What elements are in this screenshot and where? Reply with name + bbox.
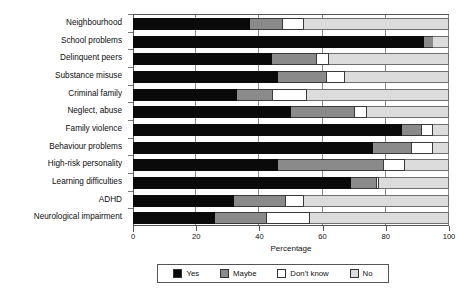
bar-segment-no <box>304 18 449 30</box>
bar-segment-maybe <box>272 53 316 65</box>
bar-row <box>133 53 449 65</box>
bar-segment-maybe <box>291 106 354 118</box>
legend-item: Maybe <box>220 269 256 278</box>
bar-segment-no <box>345 71 449 83</box>
bar-segment-yes <box>133 89 237 101</box>
x-axis-tick <box>323 226 324 231</box>
bar-segment-no <box>405 159 449 171</box>
chart-legend: YesMaybeDon't knowNo <box>157 264 389 283</box>
category-label: Criminal family <box>68 89 122 99</box>
bar-segment-no <box>379 177 449 189</box>
category-label: Neighbourhood <box>66 18 122 28</box>
category-label: Substance misuse <box>55 71 122 81</box>
legend-swatch-icon <box>277 269 286 278</box>
bar-segment-yes <box>133 212 215 224</box>
bar-segment-dont-know <box>411 142 433 154</box>
bar-row <box>133 36 449 48</box>
y-axis-tick <box>128 32 133 33</box>
bar-segment-yes <box>133 18 250 30</box>
stacked-bar-chart: NeighbourhoodSchool problemsDelinquent p… <box>0 0 474 296</box>
category-label: Neglect, abuse <box>67 106 122 116</box>
y-axis-tick <box>128 85 133 86</box>
bar-segment-no <box>433 36 449 48</box>
legend-swatch-icon <box>350 269 359 278</box>
bar-segment-maybe <box>234 195 285 207</box>
bar-segment-maybe <box>402 124 421 136</box>
x-axis-tick <box>259 226 260 231</box>
bar-segment-no <box>304 195 449 207</box>
bar-segment-yes <box>133 159 278 171</box>
y-axis-tick <box>128 155 133 156</box>
category-label: School problems <box>61 36 122 46</box>
bar-row <box>133 89 449 101</box>
x-axis-tick-label: 20 <box>182 232 210 241</box>
category-label: Learning difficulties <box>52 177 122 187</box>
bar-segment-no <box>329 53 449 65</box>
bar-row <box>133 212 449 224</box>
legend-label: Don't know <box>290 269 328 278</box>
bar-segment-maybe <box>237 89 272 101</box>
bar-segment-dont-know <box>285 195 304 207</box>
bar-segment-no <box>433 124 449 136</box>
category-label: Neurological impairment <box>34 212 122 222</box>
x-axis-title: Percentage <box>133 244 449 253</box>
category-label: ADHD <box>99 195 122 205</box>
bar-segment-dont-know <box>383 159 405 171</box>
bar-row <box>133 18 449 30</box>
bar-row <box>133 159 449 171</box>
bar-segment-dont-know <box>272 89 307 101</box>
bar-row <box>133 71 449 83</box>
legend-item: No <box>350 269 373 278</box>
legend-swatch-icon <box>220 269 229 278</box>
y-axis-tick <box>128 49 133 50</box>
bar-row <box>133 124 449 136</box>
bar-segment-no <box>433 142 449 154</box>
bar-segment-maybe <box>250 18 282 30</box>
legend-label: Maybe <box>233 269 256 278</box>
y-axis-tick <box>128 138 133 139</box>
x-axis-tick-label: 60 <box>309 232 337 241</box>
category-label: Delinquent peers <box>60 53 122 63</box>
bar-segment-dont-know <box>354 106 367 118</box>
bar-segment-yes <box>133 106 291 118</box>
bar-segment-dont-know <box>421 124 434 136</box>
y-axis-tick <box>128 14 133 15</box>
category-label: Behaviour problems <box>49 142 122 152</box>
y-axis-tick <box>128 208 133 209</box>
legend-label: No <box>363 269 373 278</box>
y-axis-tick <box>128 67 133 68</box>
legend-swatch-icon <box>173 269 182 278</box>
bar-segment-maybe <box>373 142 411 154</box>
bar-segment-maybe <box>215 212 266 224</box>
legend-label: Yes <box>186 269 199 278</box>
x-axis-tick-label: 40 <box>245 232 273 241</box>
bar-segment-yes <box>133 36 424 48</box>
plot-area <box>133 14 449 226</box>
x-axis-tick <box>449 226 450 231</box>
category-axis: NeighbourhoodSchool problemsDelinquent p… <box>0 14 128 226</box>
bar-segment-maybe <box>278 71 325 83</box>
bar-segment-yes <box>133 71 278 83</box>
bar-segment-dont-know <box>326 71 345 83</box>
bar-segment-no <box>310 212 449 224</box>
x-axis-tick-label: 100 <box>435 232 463 241</box>
bar-segment-yes <box>133 124 402 136</box>
x-axis-tick <box>133 226 134 231</box>
x-axis-tick-label: 80 <box>372 232 400 241</box>
bar-segment-yes <box>133 177 351 189</box>
bar-segment-dont-know <box>282 18 304 30</box>
x-axis-tick-label: 0 <box>119 232 147 241</box>
bar-segment-dont-know <box>316 53 329 65</box>
bar-row <box>133 106 449 118</box>
x-axis-tick <box>386 226 387 231</box>
bar-row <box>133 177 449 189</box>
category-label: Family violence <box>66 124 122 134</box>
category-label: High-risk personality <box>48 159 122 169</box>
bar-row <box>133 142 449 154</box>
x-axis-tick <box>196 226 197 231</box>
legend-item: Don't know <box>277 269 328 278</box>
bar-segment-yes <box>133 142 373 154</box>
bar-segment-no <box>367 106 449 118</box>
bar-segment-yes <box>133 195 234 207</box>
bar-segment-maybe <box>424 36 433 48</box>
